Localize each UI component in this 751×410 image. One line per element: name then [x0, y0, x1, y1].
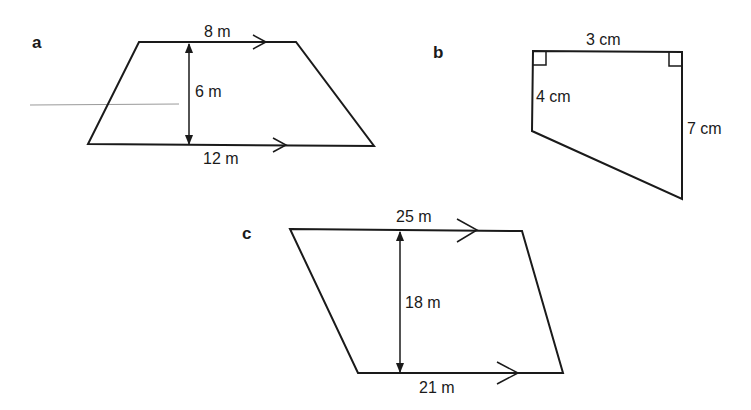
part-label-b: b: [433, 44, 443, 61]
part-label-a: a: [32, 34, 41, 51]
right-angle-mark-left: [533, 52, 546, 65]
label-c-top: 25 m: [396, 209, 432, 225]
label-c-height: 18 m: [405, 295, 441, 311]
label-a-top: 8 m: [204, 24, 231, 40]
figure-a: [88, 35, 374, 152]
diagram-canvas: [0, 0, 751, 410]
label-b-left: 4 cm: [536, 89, 571, 105]
label-b-right: 7 cm: [687, 121, 722, 137]
label-a-bottom: 12 m: [203, 151, 239, 167]
label-b-top: 3 cm: [586, 32, 621, 48]
label-a-height: 6 m: [195, 84, 222, 100]
trapezium-b-outline: [532, 51, 682, 199]
right-angle-mark-right: [669, 52, 682, 66]
trapezium-a-outline: [88, 42, 374, 146]
label-c-bottom: 21 m: [419, 380, 455, 396]
figure-b: [532, 51, 682, 199]
stray-line: [30, 104, 179, 105]
part-label-c: c: [242, 225, 251, 242]
